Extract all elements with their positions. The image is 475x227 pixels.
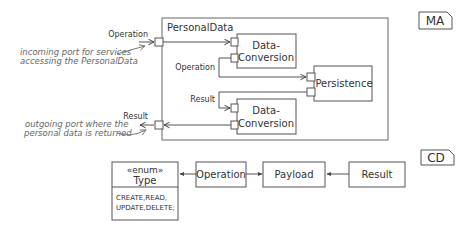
payload-class-label: Payload (275, 169, 314, 180)
enum-type-class: «enum» Type CREATE,READ, UPDATE,DELETE; (112, 162, 178, 220)
data-conversion-bottom: Data- Conversion (231, 99, 296, 134)
persistence-port-out (307, 88, 315, 96)
component-title: PersonalData (167, 22, 233, 33)
dc1-port-in (231, 38, 238, 46)
enum-values-line2: UPDATE,DELETE; (116, 204, 175, 212)
payload-class: Payload (263, 162, 325, 187)
outer-port-operation-label: Operation (108, 30, 148, 39)
diagram-canvas: MA PersonalData Operation Result Data- C… (0, 0, 475, 227)
outer-port-result: Result (123, 112, 163, 129)
enum-values-line1: CREATE,READ, (116, 194, 167, 202)
enum-name: Type (133, 175, 157, 186)
dc1-port-out (231, 54, 238, 62)
result-class: Result (349, 162, 405, 187)
annotation-outgoing: outgoing port where the personal data is… (23, 119, 146, 138)
annotation-incoming: incoming port for services accessing the… (20, 46, 145, 66)
persistence-port-in (307, 73, 315, 81)
dc1-label-line2: Conversion (238, 52, 294, 63)
annotation-incoming-line2: accessing the PersonalData (20, 56, 138, 66)
dc1-label-line1: Data- (252, 40, 280, 51)
persistence-label: Persistence (315, 78, 372, 89)
inner-operation-label: Operation (175, 63, 215, 72)
outer-port-operation: Operation (108, 30, 163, 46)
dc2-port-out (231, 121, 238, 129)
cd-tag-label: CD (427, 151, 445, 165)
dc2-label-line1: Data- (252, 105, 280, 116)
dc2-port-in (231, 104, 238, 112)
dc2-label-line2: Conversion (238, 118, 294, 129)
enum-stereotype: «enum» (127, 165, 164, 175)
inner-result-label: Result (190, 95, 215, 104)
ma-tag: MA (419, 12, 452, 29)
data-conversion-top: Data- Conversion (231, 34, 296, 68)
operation-class: Operation (196, 162, 246, 187)
operation-class-label: Operation (196, 169, 246, 180)
result-class-label: Result (362, 169, 393, 180)
ma-tag-label: MA (426, 14, 445, 28)
annotation-outgoing-line2: personal data is returned (23, 128, 132, 138)
cd-tag: CD (421, 150, 454, 165)
persistence-component: Persistence (307, 66, 373, 101)
